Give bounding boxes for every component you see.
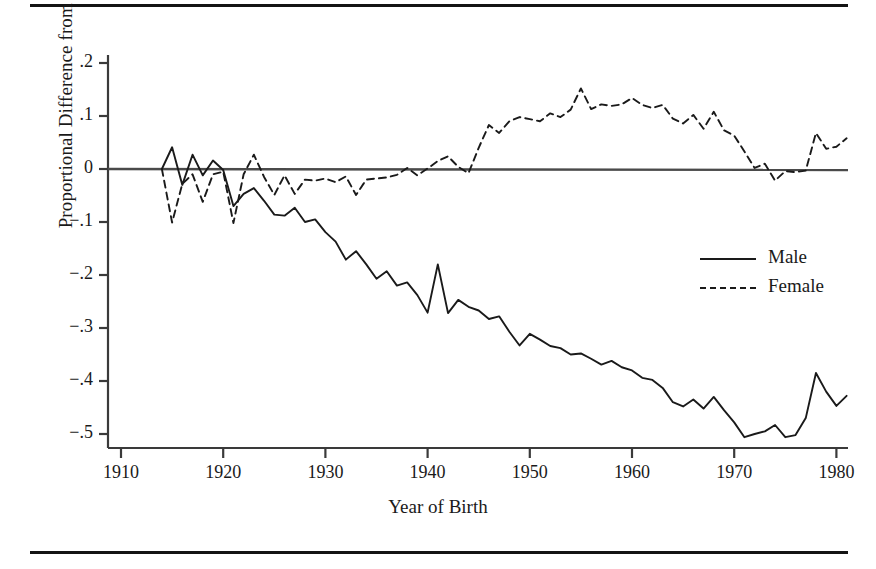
data-series-group <box>162 88 847 437</box>
figure-container: Proportional Difference from 1914 Cohort… <box>0 0 876 569</box>
y-tick-label: .2 <box>37 51 93 72</box>
x-tick-label: 1960 <box>592 462 672 483</box>
y-tick-label: −.5 <box>37 422 93 443</box>
x-tick-label: 1920 <box>183 462 263 483</box>
y-axis-ticks <box>99 63 108 434</box>
x-tick-label: 1950 <box>490 462 570 483</box>
y-tick-label: −.1 <box>37 210 93 231</box>
x-tick-label: 1930 <box>285 462 365 483</box>
legend-label-male: Male <box>768 246 807 268</box>
x-tick-label: 1970 <box>694 462 774 483</box>
x-tick-label: 1980 <box>796 462 876 483</box>
x-tick-label: 1910 <box>81 462 161 483</box>
y-tick-label: −.2 <box>37 263 93 284</box>
y-tick-label: 0 <box>37 157 93 178</box>
x-axis-ticks <box>121 448 836 458</box>
y-tick-label: −.4 <box>37 369 93 390</box>
zero-reference-line <box>108 169 848 170</box>
y-tick-label: .1 <box>37 104 93 125</box>
legend-label-female: Female <box>768 275 824 297</box>
legend-line-samples <box>700 259 756 288</box>
x-tick-label: 1940 <box>388 462 468 483</box>
series-line-male <box>162 147 847 437</box>
chart-plot-area <box>0 0 876 569</box>
axis-spines <box>108 55 848 448</box>
y-tick-label: −.3 <box>37 316 93 337</box>
